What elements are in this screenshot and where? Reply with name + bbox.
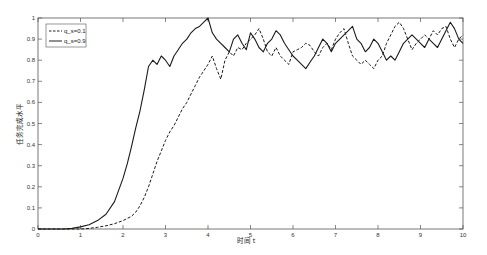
y-tick-label: 0.9 bbox=[27, 36, 36, 42]
legend-label-series-2: q_s=0.9 bbox=[64, 38, 86, 44]
y-tick-label: 0.6 bbox=[27, 99, 36, 105]
x-axis-label: 时间 t bbox=[237, 236, 256, 245]
y-tick-label: 0.1 bbox=[27, 205, 36, 211]
plot-frame bbox=[38, 18, 463, 229]
y-tick-label: 0.8 bbox=[27, 57, 36, 63]
line-chart: 01234567891000.10.20.30.40.50.60.70.80.9… bbox=[0, 0, 487, 255]
legend-label-series-1: q_s=0.1 bbox=[64, 28, 86, 34]
y-tick-label: 0.2 bbox=[27, 184, 36, 190]
y-tick-label: 0.5 bbox=[27, 121, 36, 127]
y-axis-label: 任务完成水平 bbox=[15, 103, 24, 145]
legend: q_s=0.1 q_s=0.9 bbox=[46, 24, 86, 47]
y-tick-label: 0.7 bbox=[27, 78, 36, 84]
y-tick-label: 0.4 bbox=[27, 142, 36, 148]
x-tick-label: 10 bbox=[460, 232, 467, 238]
y-tick-label: 0.3 bbox=[27, 163, 36, 169]
